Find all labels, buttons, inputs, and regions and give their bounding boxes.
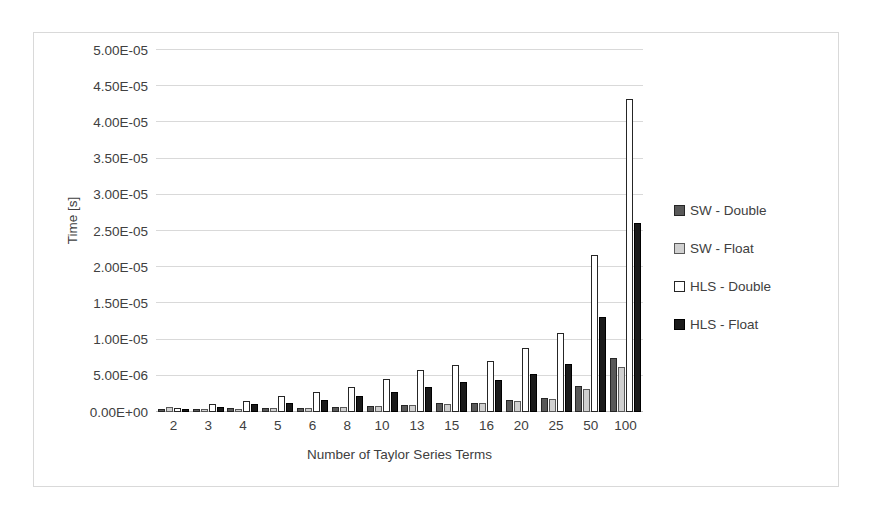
bar-hls-float [182,409,189,412]
bar-hls-double [348,387,355,412]
legend-swatch-sw-float [674,243,685,254]
x-tick-label: 10 [365,418,400,434]
bar-sw-float [235,409,242,412]
bar-sw-double [436,403,443,412]
plot-area [156,50,643,412]
x-tick-label: 3 [191,418,226,434]
bar-sw-double [227,408,234,412]
x-tick-label: 2 [156,418,191,434]
bar-hls-float [565,364,572,412]
legend-entry: SW - Float [674,229,824,267]
y-axis-tick-labels: 0.00E+005.00E-061.00E-051.50E-052.00E-05… [48,50,148,412]
bar-sw-double [367,406,374,412]
chart-legend: SW - DoubleSW - FloatHLS - DoubleHLS - F… [674,191,824,343]
x-tick-label: 15 [434,418,469,434]
bar-hls-double [452,365,459,412]
chart-frame: Time [s] 0.00E+005.00E-061.00E-051.50E-0… [33,32,839,487]
bar-hls-double [557,333,564,412]
bar-hls-float [391,392,398,412]
bar-sw-float [340,407,347,412]
legend-swatch-hls-double [674,281,685,292]
y-tick-label: 1.50E-05 [64,297,148,311]
y-tick-label: 5.00E-06 [64,369,148,383]
bar-hls-double [313,392,320,412]
x-axis-title: Number of Taylor Series Terms [156,447,643,462]
x-tick-label: 16 [469,418,504,434]
bar-group [226,50,261,412]
bar-sw-double [471,403,478,412]
bar-group [504,50,539,412]
x-tick-label: 100 [608,418,643,434]
bar-group [191,50,226,412]
x-axis-tick-labels: 23456810131516202550100 [156,418,643,442]
bar-group [539,50,574,412]
bar-hls-double [591,255,598,412]
bar-sw-float [409,405,416,412]
bar-sw-float [166,407,173,412]
bar-sw-double [262,408,269,412]
bar-hls-float [251,404,258,412]
bar-group [434,50,469,412]
bar-hls-double [626,99,633,412]
bar-hls-double [383,379,390,412]
x-tick-label: 13 [400,418,435,434]
bar-hls-double [522,348,529,412]
bar-sw-double [610,358,617,412]
bar-group [295,50,330,412]
bar-hls-float [217,407,224,412]
bar-sw-double [541,398,548,412]
y-tick-label: 4.50E-05 [64,80,148,94]
bar-sw-double [401,405,408,412]
legend-label: HLS - Double [690,279,771,294]
bar-group [400,50,435,412]
bar-sw-float [479,403,486,412]
plot-region [156,50,643,428]
bar-sw-double [332,407,339,412]
bar-hls-double [209,404,216,412]
x-tick-label: 8 [330,418,365,434]
y-tick-label: 1.00E-05 [64,333,148,347]
bar-sw-double [575,386,582,412]
bar-hls-float [460,382,467,412]
bar-group [156,50,191,412]
y-tick-label: 2.00E-05 [64,261,148,275]
bar-hls-float [356,396,363,412]
bar-group [573,50,608,412]
bar-hls-float [321,400,328,412]
bar-hls-double [278,396,285,412]
bar-group [260,50,295,412]
bar-sw-float [549,399,556,412]
legend-label: SW - Float [690,241,754,256]
x-tick-label: 25 [539,418,574,434]
y-tick-label: 5.00E-05 [64,44,148,58]
bar-sw-float [583,389,590,412]
bar-sw-float [375,406,382,412]
bar-hls-float [425,387,432,412]
bar-group [330,50,365,412]
bar-sw-double [297,408,304,412]
y-tick-label: 3.50E-05 [64,152,148,166]
x-tick-label: 4 [226,418,261,434]
bar-hls-float [286,403,293,412]
bar-hls-float [530,374,537,412]
x-tick-label: 20 [504,418,539,434]
bar-group [469,50,504,412]
legend-swatch-hls-float [674,319,685,330]
bar-hls-double [487,361,494,412]
legend-entry: HLS - Double [674,267,824,305]
x-tick-label: 50 [573,418,608,434]
bar-group [608,50,643,412]
bar-sw-float [618,367,625,412]
bar-sw-float [270,408,277,412]
bar-hls-double [174,408,181,412]
bar-hls-double [417,370,424,412]
y-tick-label: 4.00E-05 [64,116,148,130]
bar-hls-float [634,223,641,412]
legend-label: HLS - Float [690,317,758,332]
bar-sw-double [158,409,165,412]
bar-sw-float [305,408,312,412]
bar-hls-float [599,317,606,412]
legend-entry: HLS - Float [674,305,824,343]
x-tick-label: 5 [260,418,295,434]
bar-group [365,50,400,412]
